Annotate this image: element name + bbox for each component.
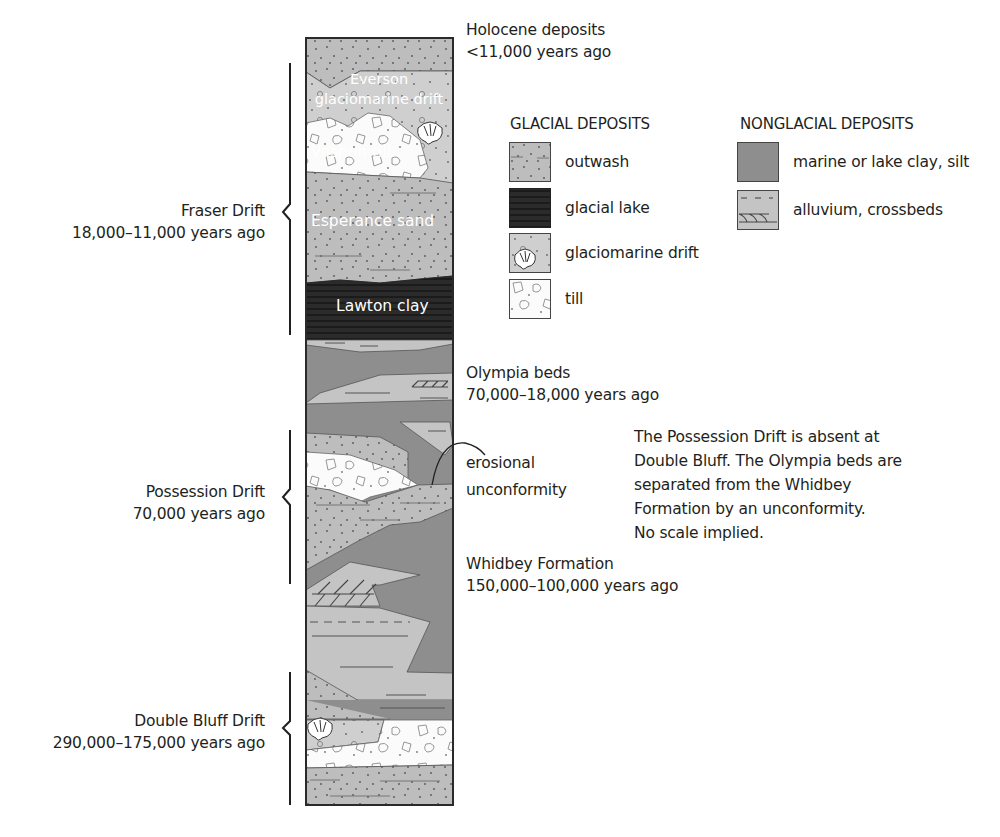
nonglacial-legend-title: NONGLACIAL DEPOSITS — [740, 115, 914, 133]
olympia-label: Olympia beds 70,000–18,000 years ago — [466, 362, 659, 406]
legend-label: till — [565, 290, 583, 308]
whidbey-label: Whidbey Formation 150,000–100,000 years … — [466, 553, 678, 597]
fraser-age: 18,000–11,000 years ago — [72, 222, 265, 244]
olympia-name: Olympia beds — [466, 362, 659, 384]
note-line: Double Bluff. The Olympia beds are — [634, 449, 964, 473]
explanatory-note: The Possession Drift is absent at Double… — [634, 425, 964, 545]
legend-item-glaciomarine-drift: glaciomarine drift — [509, 233, 699, 273]
outwash-swatch — [509, 142, 551, 182]
legend-item-alluvium: alluvium, crossbeds — [737, 190, 943, 230]
olympia-age: 70,000–18,000 years ago — [466, 384, 659, 406]
fraser-drift-label: Fraser Drift 18,000–11,000 years ago — [72, 200, 265, 244]
holocene-label: Holocene deposits <11,000 years ago — [466, 19, 611, 63]
holocene-age: <11,000 years ago — [466, 41, 611, 63]
legend-label: marine or lake clay, silt — [793, 153, 969, 171]
fraser-bracket — [283, 63, 290, 335]
erosional-line1: erosional — [466, 450, 567, 477]
till-swatch — [509, 279, 551, 319]
esperance-label: Esperance sand — [311, 212, 434, 230]
fraser-name: Fraser Drift — [72, 200, 265, 222]
glacial-lake-swatch — [509, 188, 551, 228]
possession-bracket — [283, 430, 290, 584]
legend-label: alluvium, crossbeds — [793, 201, 943, 219]
erosional-label: erosional unconformity — [466, 450, 567, 504]
note-line: No scale implied. — [634, 521, 964, 545]
legend-label: outwash — [565, 153, 629, 171]
lawton-label: Lawton clay — [336, 297, 429, 315]
legend-label: glacial lake — [565, 199, 650, 217]
glacial-legend-title: GLACIAL DEPOSITS — [510, 115, 650, 133]
possession-drift-label: Possession Drift 70,000 years ago — [133, 481, 265, 525]
glaciomarine-drift-swatch — [509, 233, 551, 273]
whidbey-age: 150,000–100,000 years ago — [466, 575, 678, 597]
whidbey-name: Whidbey Formation — [466, 553, 678, 575]
legend-label: glaciomarine drift — [565, 244, 699, 262]
double-bluff-name: Double Bluff Drift — [53, 710, 265, 732]
legend-item-glacial-lake: glacial lake — [509, 188, 650, 228]
alluvium-swatch — [737, 190, 779, 230]
legend-item-till: till — [509, 279, 583, 319]
double-bluff-drift-label: Double Bluff Drift 290,000–175,000 years… — [53, 710, 265, 754]
erosional-line2: unconformity — [466, 477, 567, 504]
holocene-name: Holocene deposits — [466, 19, 611, 41]
double-bluff-age: 290,000–175,000 years ago — [53, 732, 265, 754]
legend-item-marine-clay: marine or lake clay, silt — [737, 142, 969, 182]
double-bluff-bracket — [283, 672, 290, 805]
everson-label: Everson — [350, 71, 408, 87]
vashon-label: Vashon till — [311, 143, 391, 161]
note-line: Formation by an unconformity. — [634, 497, 964, 521]
note-line: separated from the Whidbey — [634, 473, 964, 497]
legend-item-outwash: outwash — [509, 142, 629, 182]
everson-label-2: glaciomarine drift — [315, 91, 444, 107]
note-line: The Possession Drift is absent at — [634, 425, 964, 449]
possession-age: 70,000 years ago — [133, 503, 265, 525]
possession-name: Possession Drift — [133, 481, 265, 503]
marine-clay-swatch — [737, 142, 779, 182]
